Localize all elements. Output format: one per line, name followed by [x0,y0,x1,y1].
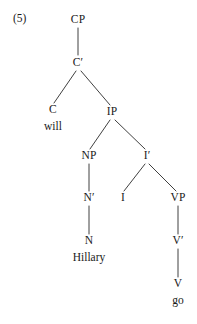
tree-edges-canvas [0,0,197,324]
syntax-tree-figure: (5) CPC′CIPNPI′N′IVPNV′VwillHillarygo [0,0,197,324]
tree-node-ip: IP [107,106,117,118]
tree-edge-ibar-i [124,164,145,191]
tree-terminal-hillary: Hillary [73,252,106,264]
tree-node-i: I [121,192,125,204]
tree-node-nbar: N′ [83,192,94,204]
tree-edge-ibar-vp [149,164,176,191]
tree-node-ibar: I′ [144,150,151,162]
tree-terminal-go: go [172,295,184,307]
tree-node-vbar: V′ [172,235,183,247]
tree-node-vp: VP [171,192,186,204]
tree-node-cp: CP [71,14,85,26]
tree-edge-cbar-c [54,71,76,103]
tree-node-v: V [174,278,182,290]
tree-node-np: NP [82,150,97,162]
tree-terminal-will: will [44,121,62,133]
tree-edge-ip-np [90,120,110,149]
tree-node-n: N [85,235,93,247]
tree-edge-cbar-ip [81,71,110,105]
tree-node-cbar: C′ [73,57,83,69]
tree-node-c: C [49,104,57,116]
tree-edge-ip-ibar [115,120,145,149]
